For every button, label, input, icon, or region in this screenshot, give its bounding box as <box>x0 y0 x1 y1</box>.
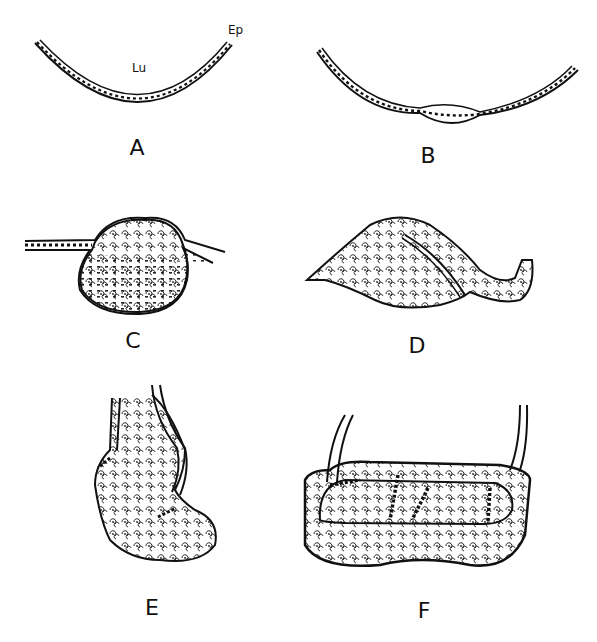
panel-label-e: E <box>145 597 159 619</box>
panel-label-f: F <box>418 600 431 622</box>
panel-label-d: D <box>409 335 426 357</box>
panel-d-drawing <box>307 218 533 308</box>
epithelium-annotation: Ep <box>228 24 243 36</box>
panel-b-drawing <box>317 48 578 123</box>
diagram-canvas <box>0 0 597 642</box>
panel-label-b: B <box>420 145 435 167</box>
panel-label-c: C <box>125 330 140 352</box>
panel-e-drawing <box>95 385 216 561</box>
panel-c-drawing <box>25 218 225 314</box>
panel-f-drawing <box>305 405 530 566</box>
lumen-annotation: Lu <box>132 62 146 74</box>
panel-label-a: A <box>129 137 144 159</box>
